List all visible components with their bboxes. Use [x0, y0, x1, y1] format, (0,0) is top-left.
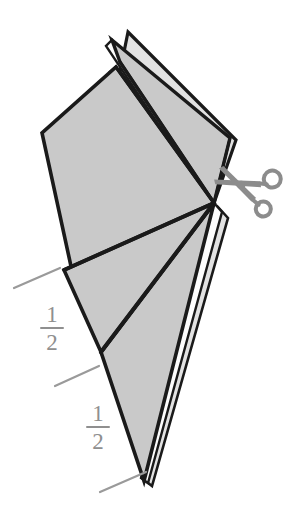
tick-bottom: [100, 472, 146, 492]
scissors-connector-upper: [260, 182, 266, 186]
scissors-handle-ring-upper: [261, 168, 283, 190]
origami-diagram: 1 2 1 2: [0, 0, 305, 510]
fraction-upper-numerator: 1: [46, 302, 58, 327]
tick-top: [14, 268, 60, 288]
scissors-connector-lower: [252, 200, 259, 205]
tick-middle: [55, 366, 99, 386]
label-one-half-upper: 1 2: [41, 302, 63, 355]
folded-paper-figure: 1 2 1 2: [0, 0, 305, 510]
fraction-lower-numerator: 1: [92, 401, 104, 426]
label-one-half-lower: 1 2: [87, 401, 109, 454]
fraction-lower-denominator: 2: [92, 429, 104, 454]
fraction-upper-denominator: 2: [46, 330, 58, 355]
